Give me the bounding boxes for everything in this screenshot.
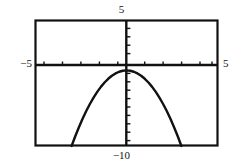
graphing-calculator-figure: 5 −5 5 −10 bbox=[0, 0, 243, 167]
calculator-plot-area bbox=[0, 0, 243, 167]
